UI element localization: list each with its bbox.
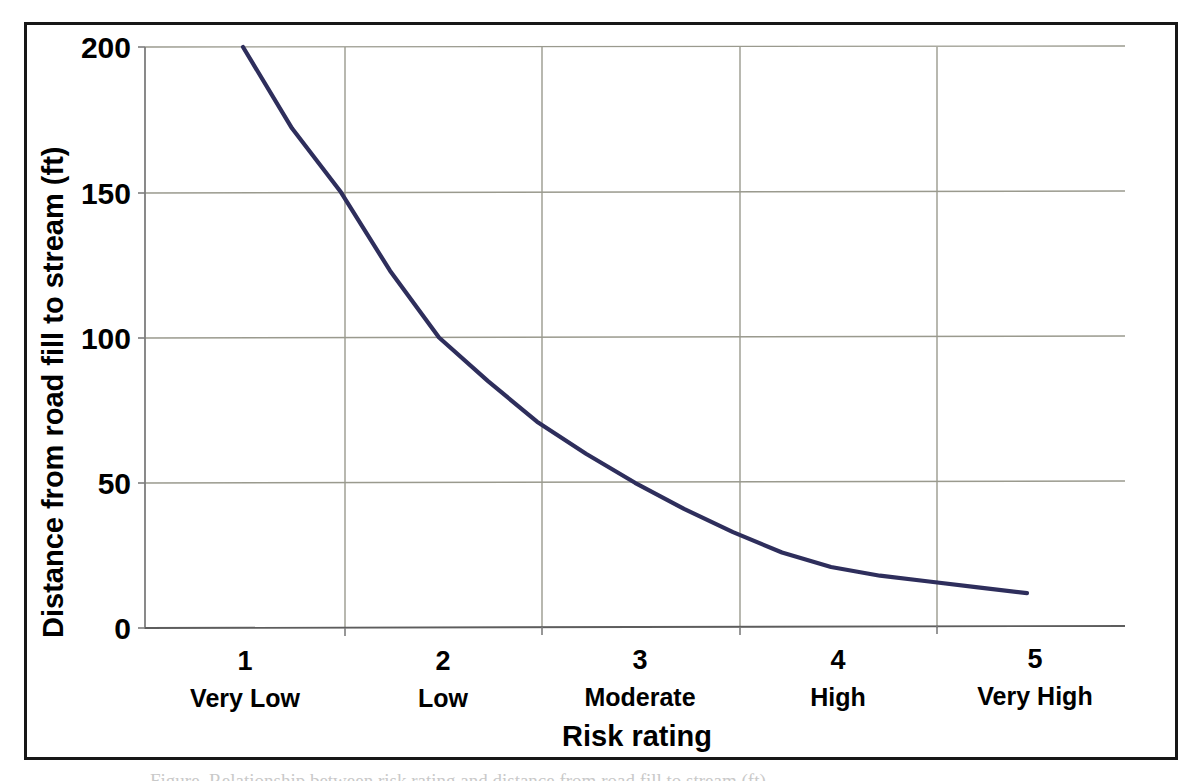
y-axis-ticks xyxy=(138,47,145,628)
x-axis-title: Risk rating xyxy=(562,720,712,752)
x-tick-number-1: 1 xyxy=(237,646,252,676)
x-tick-number-3: 3 xyxy=(632,645,647,675)
y-tick-label-100: 100 xyxy=(81,322,131,355)
x-tick-name-low: Low xyxy=(418,684,469,712)
x-tick-name-moderate: Moderate xyxy=(584,683,695,711)
y-tick-label-50: 50 xyxy=(98,467,131,500)
x-tick-number-2: 2 xyxy=(435,646,450,676)
chart-canvas: 200 150 100 50 0 Distance from road fill… xyxy=(0,0,1194,781)
x-tick-name-very-high: Very High xyxy=(977,682,1092,710)
gridline-y-200 xyxy=(145,46,1125,47)
x-tick-number-5: 5 xyxy=(1027,644,1042,674)
x-tick-name-very-low: Very Low xyxy=(190,684,300,712)
y-axis-title: Distance from road fill to stream (ft) xyxy=(37,147,69,638)
x-tick-number-4: 4 xyxy=(830,645,845,675)
y-tick-label-200: 200 xyxy=(81,31,131,64)
figure-page: 200 150 100 50 0 Distance from road fill… xyxy=(0,0,1194,781)
x-tick-name-high: High xyxy=(810,683,866,711)
figure-caption: Figure. Relationship between risk rating… xyxy=(150,770,1050,781)
y-tick-label-0: 0 xyxy=(114,612,131,645)
y-tick-label-150: 150 xyxy=(81,177,131,210)
